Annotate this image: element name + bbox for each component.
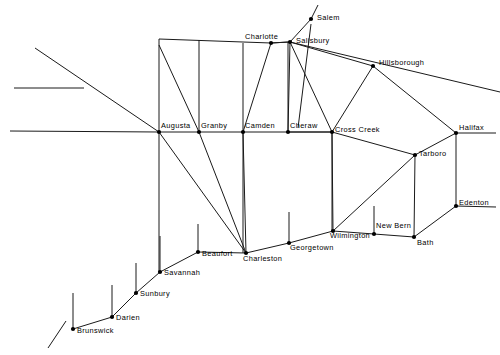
road-edge — [414, 206, 456, 237]
city-label-camden: Camden — [245, 122, 275, 129]
road-edge — [374, 234, 414, 237]
city-label-bath: Bath — [417, 239, 434, 246]
extra-segment-layer — [10, 5, 500, 348]
cheraw-charlotte-top — [271, 42, 288, 43]
city-node-cheraw[interactable] — [286, 130, 290, 134]
road-edge — [290, 42, 373, 66]
left-diagonal-long — [35, 48, 159, 132]
road-edge — [373, 66, 456, 133]
city-label-darien: Darien — [116, 314, 140, 321]
salisbury-longline-l — [290, 42, 500, 92]
city-node-tarboro[interactable] — [413, 153, 417, 157]
city-label-augusta: Augusta — [161, 122, 191, 129]
city-node-salem[interactable] — [309, 17, 313, 21]
city-label-brunswick: Brunswick — [77, 327, 114, 334]
city-node-granby[interactable] — [197, 130, 201, 134]
city-label-salem: Salem — [317, 14, 340, 21]
city-label-wilmington: Wilmington — [330, 232, 370, 239]
city-label-granby: Granby — [201, 122, 227, 129]
road-edge — [289, 231, 333, 243]
city-label-cross-creek: Cross Creek — [335, 126, 380, 133]
city-label-edenton: Edenton — [459, 199, 489, 206]
city-node-cross-creek[interactable] — [330, 130, 334, 134]
city-node-brunswick[interactable] — [71, 327, 75, 331]
network-graph — [0, 0, 500, 355]
city-node-hillsborough[interactable] — [371, 64, 375, 68]
city-node-sunbury[interactable] — [134, 291, 138, 295]
map-canvas: SalemSalisburyCharlotteHillsboroughAugus… — [0, 0, 500, 355]
road-edge — [332, 66, 373, 132]
city-label-sunbury: Sunbury — [140, 290, 170, 297]
city-node-halifax[interactable] — [454, 131, 458, 135]
city-label-halifax: Halifax — [459, 124, 484, 131]
road-edge — [332, 132, 415, 155]
city-label-beaufort: Beaufort — [202, 250, 233, 257]
city-node-charlotte[interactable] — [269, 41, 273, 45]
city-node-savannah[interactable] — [158, 270, 162, 274]
road-edge — [414, 155, 415, 237]
city-node-augusta[interactable] — [157, 130, 161, 134]
city-node-bath[interactable] — [412, 235, 416, 239]
augusta-diag-granby — [159, 45, 199, 132]
city-label-charlotte: Charlotte — [245, 33, 278, 40]
road-edge — [199, 132, 246, 253]
city-label-salisbury: Salisbury — [296, 37, 330, 44]
city-node-new-bern[interactable] — [372, 232, 376, 236]
city-label-new-bern: New Bern — [376, 222, 411, 229]
city-label-georgetown: Georgetown — [290, 244, 334, 251]
road-edge — [290, 42, 332, 132]
city-node-beaufort[interactable] — [196, 250, 200, 254]
brunswick-downleft — [48, 321, 66, 348]
city-node-camden[interactable] — [241, 130, 245, 134]
city-label-cheraw: Cheraw — [290, 122, 318, 129]
city-label-savannah: Savannah — [164, 269, 200, 276]
road-edge — [243, 43, 271, 132]
city-label-tarboro: Tarboro — [419, 150, 447, 157]
city-node-edenton[interactable] — [454, 204, 458, 208]
city-label-charleston: Charleston — [243, 255, 282, 262]
city-node-salisbury[interactable] — [288, 40, 292, 44]
city-label-hillsborough: Hillsborough — [379, 59, 424, 66]
road-edge — [246, 243, 289, 253]
road-edge — [159, 132, 246, 253]
left-horiz-main — [10, 131, 159, 132]
city-node-darien[interactable] — [110, 315, 114, 319]
